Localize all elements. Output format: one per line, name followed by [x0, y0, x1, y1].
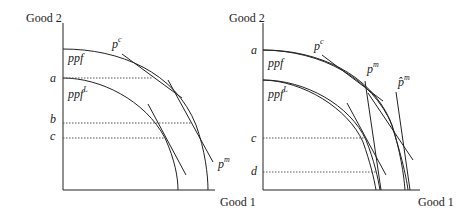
left-tick-a: a [50, 72, 56, 84]
left-tick-b: b [50, 113, 56, 125]
right-tick-c: c [251, 132, 256, 144]
diagram-canvas [0, 0, 472, 219]
left-pc-label: pc [112, 38, 122, 50]
left-pc-line [122, 54, 182, 98]
left-pm-inner-line [148, 104, 186, 175]
right-ppf-label: ppf [268, 57, 283, 69]
right-phat-m-label: p̂m [398, 76, 410, 88]
right-ppf-curve-2 [263, 50, 405, 190]
left-ppfL-label: ppfL [68, 88, 88, 100]
left-x-axis-label: Good 1 [220, 196, 256, 208]
right-ppfL-label: ppfL [268, 88, 288, 100]
left-ppf-label: ppf [68, 52, 83, 64]
right-phat-m-line [396, 92, 410, 190]
right-pc-label: pc [314, 40, 324, 52]
right-y-axis-label: Good 2 [229, 12, 265, 24]
right-x-axis-label: Good 1 [418, 196, 454, 208]
left-ppf-curve [63, 49, 208, 190]
right-pm-label: pm [367, 63, 379, 75]
left-pm-line [168, 80, 213, 162]
right-tick-d: d [251, 165, 257, 177]
right-tangent-inner [347, 103, 386, 175]
left-tick-c: c [50, 130, 55, 142]
left-y-axis-label: Good 2 [26, 12, 62, 24]
left-pm-label: pm [218, 158, 230, 170]
right-tick-a: a [251, 44, 257, 56]
